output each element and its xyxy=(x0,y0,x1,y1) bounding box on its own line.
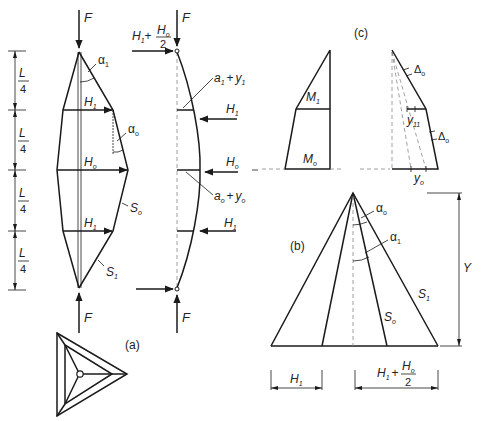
svg-text:a1+y1: a1+y1 xyxy=(214,71,246,86)
svg-text:F: F xyxy=(182,310,191,325)
svg-text:Ho: Ho xyxy=(157,23,170,38)
svg-text:Ho: Ho xyxy=(402,359,415,374)
svg-text:So: So xyxy=(384,310,396,325)
dim-label-4: L 4 xyxy=(18,246,29,275)
svg-text:α1: α1 xyxy=(98,53,109,68)
dim-label-3: L 4 xyxy=(18,186,29,215)
svg-text:yo: yo xyxy=(413,171,424,186)
svg-text:4: 4 xyxy=(20,83,26,95)
svg-text:L: L xyxy=(19,186,26,200)
svg-text:4: 4 xyxy=(20,143,26,155)
svg-text:α1: α1 xyxy=(390,230,401,245)
svg-text:H1+: H1+ xyxy=(132,29,152,44)
svg-text:H1: H1 xyxy=(226,102,239,117)
svg-text:F: F xyxy=(182,10,191,25)
svg-text:Δo: Δo xyxy=(438,130,449,144)
svg-text:So: So xyxy=(130,201,142,216)
svg-text:L: L xyxy=(19,126,26,140)
panel-b-force-polygon: αo α1 So S1 (b) Y H1 H1+ Ho 2 xyxy=(271,193,472,390)
panel-b-label: (b) xyxy=(290,239,305,253)
svg-text:αo: αo xyxy=(376,201,387,216)
svg-text:F: F xyxy=(84,310,93,325)
svg-text:H1: H1 xyxy=(84,95,97,110)
diagram-canvas: L 4 L 4 L 4 L 4 xyxy=(0,0,481,421)
svg-text:L: L xyxy=(19,246,26,260)
svg-text:F: F xyxy=(84,10,93,25)
svg-text:2: 2 xyxy=(160,38,166,50)
end-force-label: H1+ Ho 2 xyxy=(132,23,171,50)
base-right-label: H1+ Ho 2 xyxy=(377,359,416,388)
svg-text:y11: y11 xyxy=(406,113,420,128)
panel-a-truss: L 4 L 4 L 4 L 4 xyxy=(8,10,142,416)
cross-section-triangle xyxy=(57,333,127,416)
svg-text:Mo: Mo xyxy=(303,152,317,167)
svg-text:Y: Y xyxy=(463,261,472,275)
panel-a-label: (a) xyxy=(125,338,140,352)
svg-text:H1: H1 xyxy=(224,216,237,231)
svg-text:L: L xyxy=(19,66,26,80)
panel-c-label: (c) xyxy=(354,26,368,40)
svg-text:4: 4 xyxy=(20,263,26,275)
svg-text:S1: S1 xyxy=(106,265,118,280)
length-dimension: L 4 L 4 L 4 L 4 xyxy=(8,51,29,290)
svg-text:αo: αo xyxy=(128,122,139,137)
svg-text:H1: H1 xyxy=(290,372,303,387)
svg-text:Ho: Ho xyxy=(84,155,97,170)
svg-text:4: 4 xyxy=(20,203,26,215)
svg-text:H1+: H1+ xyxy=(377,366,399,381)
panel-c-moments: (c) M1 Mo Δo Δo y11 yo xyxy=(262,26,449,186)
svg-text:ao+yo: ao+yo xyxy=(214,189,246,204)
panel-a-deflected-column: F F H1+ Ho 2 H1 Ho H1 a1+y1 ao+yo xyxy=(132,10,258,333)
svg-text:Δo: Δo xyxy=(414,63,425,77)
svg-text:H1: H1 xyxy=(84,216,97,231)
svg-text:S1: S1 xyxy=(418,287,430,302)
svg-text:M1: M1 xyxy=(306,90,320,105)
dim-label-1: L 4 xyxy=(18,66,29,95)
svg-text:Ho: Ho xyxy=(226,155,239,170)
dim-label-2: L 4 xyxy=(18,126,29,155)
svg-text:2: 2 xyxy=(405,376,411,388)
